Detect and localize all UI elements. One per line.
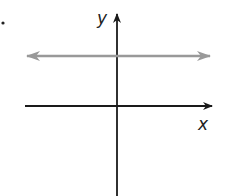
x-axis-label: x — [197, 114, 209, 134]
y-axis-label: y — [96, 8, 108, 28]
bullet-dot — [1, 21, 4, 24]
coordinate-plane: y x — [0, 0, 241, 196]
